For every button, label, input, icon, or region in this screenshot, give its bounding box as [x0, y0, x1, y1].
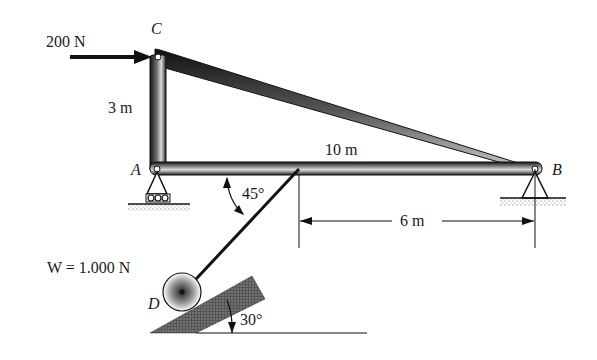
angle-label-30: 30°	[240, 312, 262, 328]
point-label-c: C	[151, 21, 162, 37]
joint-c-pin	[155, 54, 161, 60]
frame-diagram	[0, 0, 597, 360]
angle-arc-45	[223, 177, 244, 215]
force-arrow-200n	[70, 50, 152, 64]
pin-support-b	[500, 169, 566, 248]
dimension-label-ab: 10 m	[325, 142, 357, 158]
dimension-label-6m: 6 m	[400, 213, 424, 229]
cable	[183, 169, 299, 293]
member-ac	[150, 55, 166, 172]
angle-label-45: 45°	[242, 186, 264, 202]
point-label-b: B	[552, 162, 562, 178]
point-label-d: D	[148, 296, 160, 312]
pulley-d	[163, 273, 201, 311]
member-ab	[150, 162, 542, 175]
point-label-a: A	[131, 162, 141, 178]
force-label-200n: 200 N	[46, 34, 86, 50]
weight-label: W = 1.000 N	[47, 260, 130, 276]
dimension-label-ac: 3 m	[108, 100, 132, 116]
